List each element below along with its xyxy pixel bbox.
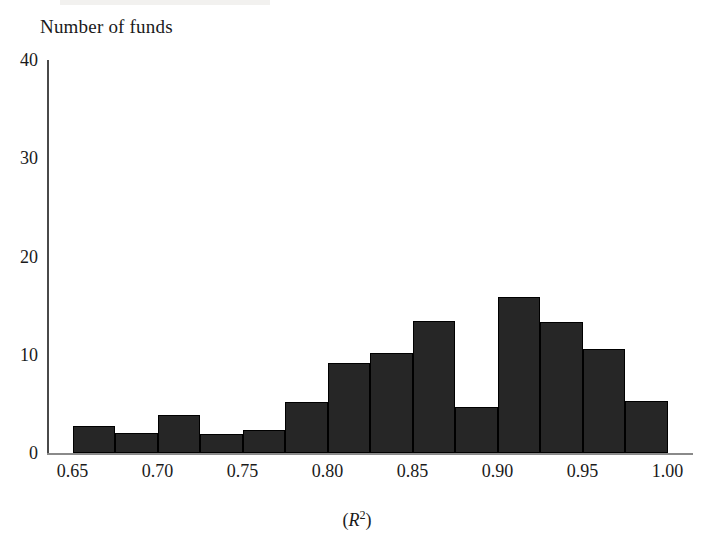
histogram-bar [200,434,243,453]
histogram-bar [115,433,158,453]
scan-artifact [60,0,270,5]
y-tick-label: 30 [20,148,38,169]
histogram-bar [370,353,413,453]
histogram-bar [498,297,541,453]
x-axis-title: (R2) [0,508,714,531]
x-tick-label: 1.00 [652,461,684,482]
histogram-bar [328,363,371,453]
y-tick-label: 10 [20,344,38,365]
x-axis-line [47,453,693,455]
histogram-bars [47,60,693,453]
x-axis-title-suffix: ) [366,510,372,530]
histogram-bar [540,322,583,453]
y-axis-title: Number of funds [40,16,173,38]
x-axis-title-variable: R [348,510,359,530]
histogram-bar [243,430,286,453]
plot-area: 010203040 [47,60,693,455]
x-tick-label: 0.80 [312,461,344,482]
histogram-bar [583,349,626,453]
histogram-bar [413,321,456,453]
x-tick-label: 0.85 [397,461,429,482]
y-tick-label: 40 [20,50,38,71]
histogram-bar [285,402,328,453]
x-tick-label: 0.65 [57,461,89,482]
x-tick-label: 0.75 [227,461,259,482]
histogram-bar [625,401,668,453]
histogram-bar [158,415,201,453]
y-tick-label: 20 [20,246,38,267]
histogram-bar [73,426,116,454]
histogram-bar [455,407,498,453]
x-tick-label: 0.90 [482,461,514,482]
x-tick-label: 0.95 [567,461,599,482]
histogram-figure: Number of funds 010203040 0.650.700.750.… [0,0,714,547]
x-tick-label: 0.70 [142,461,174,482]
y-tick-label: 0 [29,443,38,464]
x-tick-labels: 0.650.700.750.800.850.900.951.00 [47,461,693,487]
